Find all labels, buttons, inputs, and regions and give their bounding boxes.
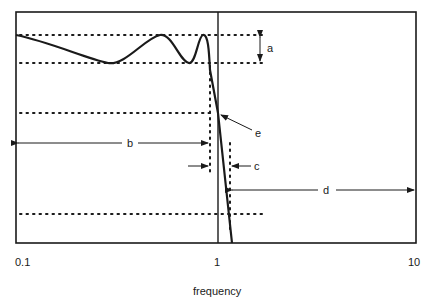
plot-frame: [16, 12, 416, 243]
label-b: b: [124, 137, 136, 149]
label-e: e: [255, 127, 261, 139]
x-tick-1: 1: [214, 256, 220, 268]
label-a: a: [267, 42, 273, 54]
filter-response-diagram: a b c d e 0.1 1 10 frequency: [0, 0, 430, 305]
dotted-reference-lines: [20, 35, 262, 232]
arrow-e: [221, 115, 252, 130]
x-tick-10: 10: [408, 256, 420, 268]
label-c: c: [254, 160, 260, 172]
x-axis-label: frequency: [193, 285, 241, 297]
label-d: d: [320, 184, 332, 196]
x-tick-0-1: 0.1: [15, 256, 30, 268]
